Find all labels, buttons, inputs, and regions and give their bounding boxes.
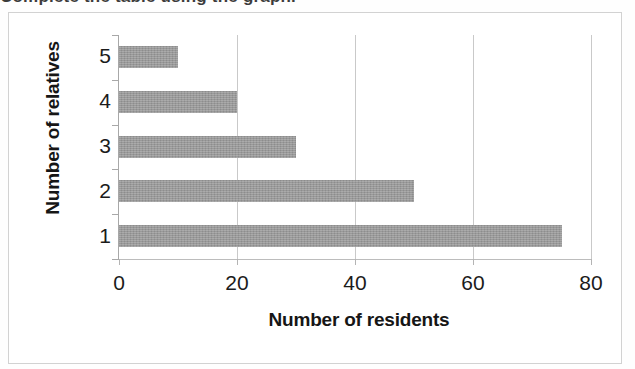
y-tick-0	[112, 35, 119, 36]
y-tick-label-3: 3	[81, 134, 111, 158]
x-tick-label-20: 20	[207, 271, 267, 295]
x-tick-0	[119, 259, 120, 265]
bar-row-1	[119, 214, 591, 259]
y-tick-5	[112, 259, 119, 260]
plot-area: 020406080	[119, 35, 591, 259]
x-axis-title: Number of residents	[119, 309, 599, 331]
gridline-80	[591, 35, 592, 259]
bar-1	[119, 225, 562, 247]
bar-row-4	[119, 80, 591, 125]
y-tick-label-5: 5	[81, 44, 111, 68]
x-tick-label-0: 0	[89, 271, 149, 295]
y-tick-2	[112, 125, 119, 126]
y-tick-label-1: 1	[81, 224, 111, 248]
y-tick-label-4: 4	[81, 89, 111, 113]
bar-row-5	[119, 35, 591, 80]
x-tick-80	[591, 259, 592, 265]
bar-3	[119, 136, 296, 158]
clipped-text-above-chart: Complete the table using the graph.	[0, 0, 635, 5]
bar-5	[119, 46, 178, 68]
x-tick-40	[355, 259, 356, 265]
bar-2	[119, 180, 414, 202]
y-tick-3	[112, 169, 119, 170]
chart-frame: Number of relatives Number of residents …	[8, 12, 622, 364]
y-tick-label-2: 2	[81, 179, 111, 203]
bar-row-2	[119, 169, 591, 214]
bar-4	[119, 91, 237, 113]
x-tick-20	[237, 259, 238, 265]
x-tick-60	[473, 259, 474, 265]
x-tick-label-60: 60	[443, 271, 503, 295]
bar-row-3	[119, 125, 591, 170]
y-axis-title: Number of relatives	[42, 28, 64, 228]
scanned-page: Complete the table using the graph. Numb…	[0, 0, 635, 369]
y-axis-tick-labels: 54321	[77, 35, 111, 259]
x-tick-label-80: 80	[561, 271, 621, 295]
x-tick-label-40: 40	[325, 271, 385, 295]
y-tick-4	[112, 214, 119, 215]
y-tick-1	[112, 80, 119, 81]
